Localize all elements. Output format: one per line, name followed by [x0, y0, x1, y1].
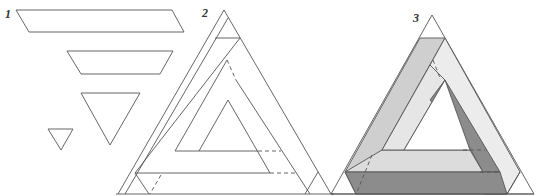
outer-right-edge — [224, 10, 331, 194]
bottom-right-corner — [305, 172, 318, 194]
panel-3-label: 3 — [412, 11, 419, 25]
inner-right-long — [236, 80, 310, 194]
large-triangle-shape — [81, 93, 140, 145]
dark-bottom-face — [345, 172, 507, 194]
inner-tri-right — [228, 100, 270, 173]
dashed-hidden-1 — [227, 60, 236, 80]
dashed-hidden-4 — [150, 175, 161, 194]
bottom-left-corner — [135, 173, 149, 194]
left-arm-inner — [135, 38, 240, 173]
panel-1-label: 1 — [5, 7, 11, 21]
panel-2: 2 — [116, 6, 334, 194]
left-inner-edge — [125, 18, 228, 194]
inner-tri-left — [199, 100, 228, 151]
trapezoid-shape — [67, 51, 173, 74]
panel-1: 1 — [5, 7, 184, 150]
left-frame-line — [175, 60, 227, 151]
outer-left-edge — [118, 10, 224, 194]
panel-2-label: 2 — [201, 6, 208, 20]
impossible-triangle-diagram: 1 2 3 — [0, 0, 536, 196]
panel-3: 3 — [331, 11, 534, 194]
small-triangle-shape — [48, 129, 73, 150]
parallelogram-shape — [16, 10, 184, 32]
